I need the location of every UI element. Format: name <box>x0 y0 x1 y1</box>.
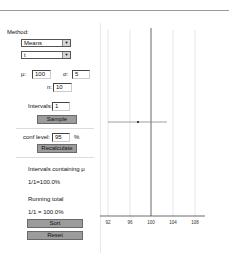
x-tick-label: 100 <box>147 220 155 225</box>
sample-mean-point[interactable] <box>137 121 139 123</box>
x-tick-label: 96 <box>127 220 133 225</box>
x-tick-label: 92 <box>105 220 111 225</box>
interval-chart: 92 96 100 104 108 <box>0 0 229 255</box>
x-tick-label: 104 <box>169 220 177 225</box>
x-tick-label: 108 <box>191 220 199 225</box>
grid-lines <box>108 30 195 216</box>
